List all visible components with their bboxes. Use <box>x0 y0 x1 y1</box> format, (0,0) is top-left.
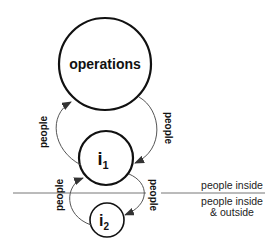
edge-operations-to-i1 <box>135 97 157 163</box>
node-i2: i2 <box>90 203 124 237</box>
edge-i1-to-i2 <box>125 174 144 215</box>
node-operations-label: operations <box>69 56 141 72</box>
node-operations: operations <box>59 18 151 110</box>
edge-label-i1-to-operations: people <box>38 115 49 148</box>
edge-label-i1-to-i2: people <box>148 179 159 212</box>
zone-label-inside: people inside <box>201 179 263 191</box>
edge-label-operations-to-i1: people <box>163 112 174 145</box>
edge-i1-to-operations <box>56 102 81 165</box>
edge-i2-to-i1 <box>70 178 91 225</box>
edge-label-i2-to-i1: people <box>54 178 65 211</box>
node-i1: i1 <box>79 131 133 185</box>
diagram-canvas: operations i1 i2 people people people pe… <box>0 0 278 246</box>
zone-label-inside-outside-2: & outside <box>210 206 254 218</box>
